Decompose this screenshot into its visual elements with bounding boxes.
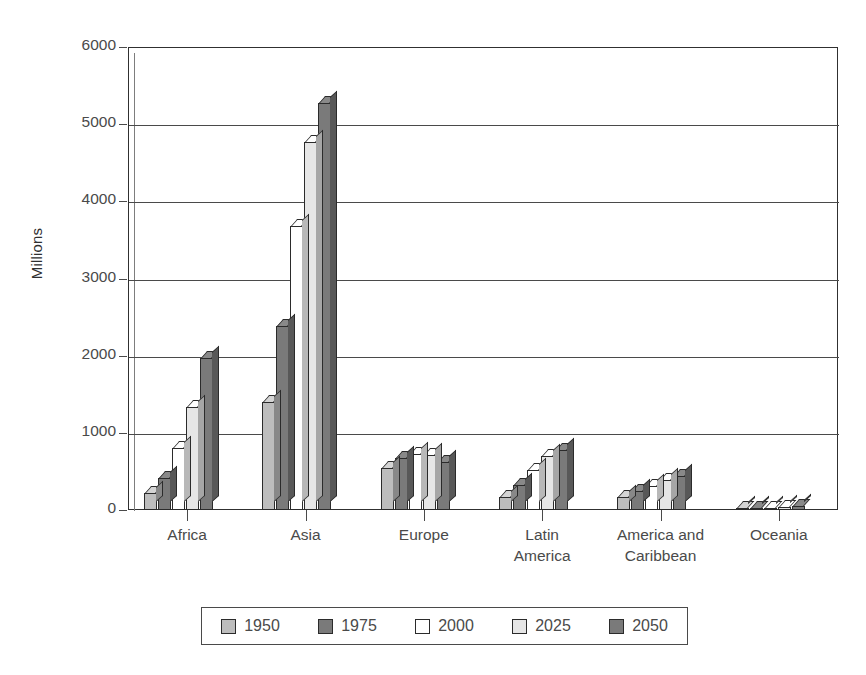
bar-1950-africa (144, 493, 157, 510)
bar-side-face (198, 395, 205, 502)
legend-swatch-icon (318, 619, 333, 634)
bar-1950-america-and-caribbean (617, 497, 630, 510)
population-bar-chart: Millions 0100020003000400050006000 Afric… (0, 0, 866, 675)
bar-side-face (421, 441, 428, 502)
bar-1950-asia (262, 402, 275, 510)
bar-side-face (184, 436, 191, 502)
legend-label: 2000 (438, 617, 474, 635)
bar-side-face (393, 455, 400, 502)
y-axis-tick-label: 5000 (46, 113, 116, 131)
legend-label: 2025 (535, 617, 571, 635)
y-axis-tick-label: 4000 (46, 190, 116, 208)
bar-side-face (170, 466, 177, 502)
bar-side-face (553, 444, 560, 502)
y-axis-tick-label: 0 (46, 499, 116, 517)
bars-layer (128, 47, 838, 510)
legend-label: 1950 (244, 617, 280, 635)
y-axis-tick-mark (119, 124, 127, 125)
bar-side-face (449, 449, 456, 502)
bar-side-face (288, 314, 295, 502)
category-label-line: Caribbean (586, 545, 736, 566)
y-axis-tick-label: 3000 (46, 268, 116, 286)
bar-side-face (274, 389, 281, 501)
legend-label: 2050 (632, 617, 668, 635)
legend-item-2050[interactable]: 2050 (609, 617, 668, 635)
bar-side-face (539, 458, 546, 502)
bar-1950-latin-america (499, 497, 512, 510)
legend-item-2025[interactable]: 2025 (512, 617, 571, 635)
legend-label: 1975 (341, 617, 377, 635)
bar-side-face (330, 91, 337, 502)
x-axis-tick-mark (779, 510, 780, 521)
bar-side-face (435, 443, 442, 502)
category-label-line: Oceania (704, 524, 854, 545)
bar-side-face (407, 446, 414, 502)
y-axis-tick-label: 1000 (46, 422, 116, 440)
y-axis-tick-label: 6000 (46, 36, 116, 54)
y-axis-tick-mark (119, 356, 127, 357)
bar-side-face (212, 346, 219, 502)
bar-1975-oceania (750, 508, 763, 510)
y-axis-tick-mark (119, 201, 127, 202)
y-axis-tick-mark (119, 510, 127, 511)
legend-swatch-icon (415, 619, 430, 634)
y-axis-tick-mark (119, 433, 127, 434)
y-axis-tick-mark (119, 47, 127, 48)
y-axis-tick-label: 2000 (46, 345, 116, 363)
x-axis-tick-mark (542, 510, 543, 521)
bar-2000-oceania (764, 508, 777, 510)
bar-side-face (685, 464, 692, 502)
x-axis-tick-mark (424, 510, 425, 521)
y-axis-tick-mark (119, 279, 127, 280)
legend-swatch-icon (221, 619, 236, 634)
y-axis-title: Millions (28, 199, 45, 309)
bar-2025-oceania (778, 507, 791, 510)
x-axis-tick-mark (661, 510, 662, 521)
legend: 19501975200020252050 (201, 607, 688, 645)
x-axis-tick-mark (306, 510, 307, 521)
bar-side-face (567, 438, 574, 502)
x-axis-tick-mark (187, 510, 188, 521)
legend-swatch-icon (609, 619, 624, 634)
legend-swatch-icon (512, 619, 527, 634)
legend-item-1950[interactable]: 1950 (221, 617, 280, 635)
bar-1950-oceania (736, 508, 749, 510)
bar-side-face (316, 130, 323, 502)
legend-item-2000[interactable]: 2000 (415, 617, 474, 635)
bar-2050-oceania (792, 506, 805, 510)
bar-side-face (302, 213, 309, 502)
bar-1950-europe (381, 468, 394, 510)
category-label-oceania: Oceania (704, 524, 854, 545)
legend-item-1975[interactable]: 1975 (318, 617, 377, 635)
